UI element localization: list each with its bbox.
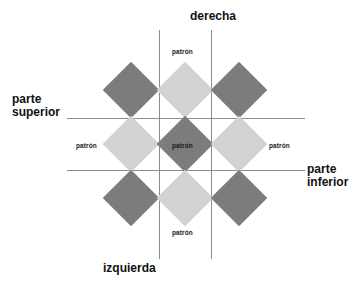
diamond-top-left [103, 62, 160, 119]
diamond-bottom-right [211, 170, 268, 227]
pattern-label-top: patrón [172, 49, 193, 56]
edge-label-right: parte inferior [307, 163, 348, 190]
diamond-middle-left [103, 116, 160, 173]
pattern-label-bottom: patrón [172, 230, 193, 237]
pattern-direction-diagram: patrón patrón patrón patrón patrón derec… [0, 0, 361, 288]
diamond-middle-right [211, 116, 268, 173]
edge-label-left: parte superior [12, 93, 60, 120]
diamond-top-center [157, 62, 214, 119]
pattern-label-right: patrón [269, 143, 290, 150]
edge-label-bottom: izquierda [103, 262, 156, 275]
diamond-top-right [211, 62, 268, 119]
pattern-label-center: patrón [172, 143, 193, 150]
diamond-bottom-left [103, 170, 160, 227]
diamond-bottom-center [157, 170, 214, 227]
pattern-label-left: patrón [76, 143, 97, 150]
edge-label-top: derecha [190, 10, 236, 23]
